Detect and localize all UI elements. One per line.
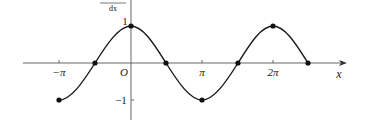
point-three-half-pi bbox=[235, 60, 240, 65]
x-axis-label: x bbox=[335, 67, 342, 81]
point-neg-pi bbox=[56, 97, 61, 102]
point-five-half-pi bbox=[305, 60, 310, 65]
point-pi bbox=[199, 97, 204, 102]
point-2pi bbox=[270, 23, 275, 28]
origin-label: O bbox=[120, 66, 128, 78]
point-zero bbox=[128, 23, 133, 28]
y-axis-label: dx bbox=[109, 4, 117, 13]
cosine-graph: dx x −π O π 2π 1 −1 bbox=[0, 0, 365, 127]
x-tick-label-pi: π bbox=[199, 66, 205, 78]
point-neg-half-pi bbox=[92, 60, 97, 65]
y-tick-label-1: 1 bbox=[122, 15, 128, 27]
y-tick-label-neg1: −1 bbox=[115, 94, 127, 106]
point-half-pi bbox=[163, 60, 168, 65]
x-tick-label-2pi: 2π bbox=[267, 66, 279, 78]
x-tick-label-neg-pi: −π bbox=[53, 66, 66, 78]
